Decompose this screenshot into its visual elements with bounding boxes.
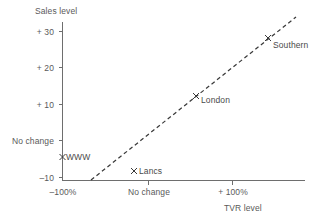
y-tick-label-30: + 30 (0, 27, 54, 37)
x-axis-title: TVR level (224, 203, 262, 213)
y-tick-label-10: + 10 (0, 100, 54, 110)
y-axis-title: Sales level (35, 6, 77, 16)
data-point-southern (265, 35, 271, 41)
y-tick-label-no-change: No change (0, 136, 54, 146)
data-point-label-www: WWW (66, 152, 90, 162)
y-tick-label-20: + 20 (0, 63, 54, 73)
data-point-london (193, 93, 199, 99)
x-tick-label-no-change: No change (113, 187, 185, 197)
x-tick-label-pos-100: + 100% (205, 187, 261, 197)
y-tick-label-neg-10: –10 (0, 173, 54, 183)
data-point-lancs (131, 168, 137, 174)
x-tick-label-neg-100: –100% (40, 187, 86, 197)
data-point-label-southern: Southern (273, 40, 308, 50)
sales-vs-tvr-scatter-chart: Sales level TVR level + 30 + 20 + 10 No … (0, 0, 313, 220)
data-point-label-london: London (201, 95, 230, 105)
data-point-label-lancs: Lancs (139, 166, 162, 176)
